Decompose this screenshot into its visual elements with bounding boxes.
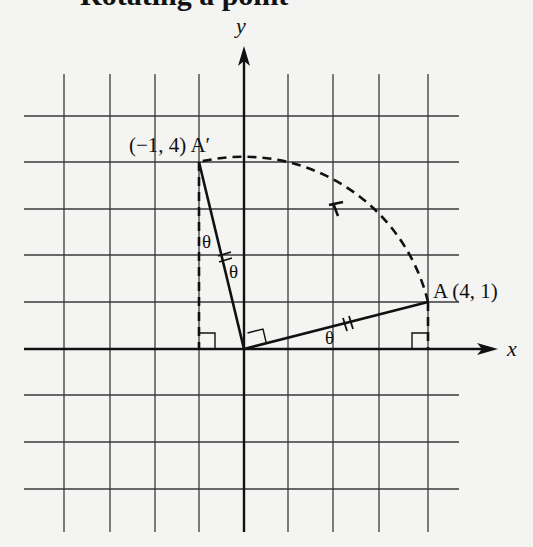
right-angle-marker-right	[412, 333, 428, 349]
segment-oa	[244, 302, 428, 349]
y-axis-label: y	[234, 13, 246, 38]
x-axis-label: x	[506, 336, 517, 361]
theta-label-origin-x-axis: θ	[325, 327, 334, 348]
grid	[24, 74, 459, 532]
theta-label-origin-y-axis: θ	[229, 261, 238, 282]
y-axis	[238, 46, 250, 532]
rotation-diagram: y x (−1, 4) A′ A (4, 1) θ θ θ	[0, 0, 533, 547]
point-a-prime-label: (−1, 4) A′	[129, 133, 210, 157]
right-angle-marker-left	[199, 333, 215, 349]
theta-label-a-prime-vertex: θ	[202, 231, 211, 252]
right-angle-marker-origin	[248, 329, 267, 344]
point-a-label: A (4, 1)	[433, 279, 498, 303]
